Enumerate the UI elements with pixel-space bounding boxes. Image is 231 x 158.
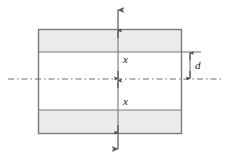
dimension-label-x-lower: x: [123, 96, 128, 107]
lower-shaded-band: [39, 110, 182, 134]
web-region: [39, 52, 182, 110]
dimension-label-d: d: [195, 60, 201, 71]
upper-shaded-band: [39, 30, 182, 53]
figure-canvas: [0, 0, 231, 158]
dimension-label-x-upper: x: [123, 54, 128, 65]
cross-section-figure: x x d: [0, 0, 231, 158]
